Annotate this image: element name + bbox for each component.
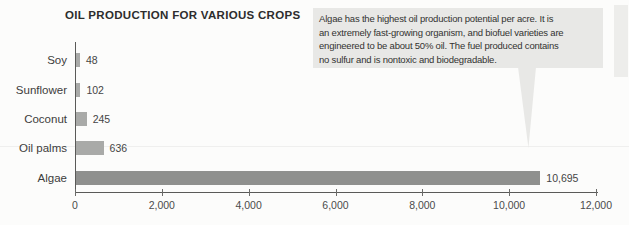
- bar-soy: [76, 53, 80, 67]
- callout-text-line: engineered to be about 50% oil. The fuel…: [319, 39, 601, 53]
- x-tick-mark: [422, 189, 423, 196]
- x-tick-label: 8,000: [392, 199, 452, 211]
- category-label: Oil palms: [0, 141, 67, 155]
- callout-tail-pointer: [518, 67, 536, 148]
- x-tick-label: 0: [45, 199, 105, 211]
- x-tick-label: 4,000: [219, 199, 279, 211]
- value-label: 10,695: [546, 171, 578, 185]
- callout-box: Algae has the highest oil production pot…: [313, 8, 603, 68]
- bar-sunflower: [76, 83, 80, 97]
- bar-coconut: [76, 112, 87, 126]
- x-tick-mark: [336, 189, 337, 196]
- bar-algae: [76, 171, 540, 185]
- callout-text-line: no sulfur and is nontoxic and biodegrada…: [319, 53, 601, 67]
- value-label: 48: [86, 53, 98, 67]
- chart-title: OIL PRODUCTION FOR VARIOUS CROPS: [65, 9, 300, 21]
- x-tick-label: 12,000: [566, 199, 626, 211]
- x-tick-mark: [509, 189, 510, 196]
- x-tick-mark: [596, 189, 597, 196]
- category-label: Coconut: [0, 112, 67, 126]
- category-label: Algae: [0, 171, 67, 185]
- x-tick-mark: [75, 189, 76, 196]
- x-axis-line: [75, 192, 598, 193]
- bar-oil-palms: [76, 141, 104, 155]
- value-label: 245: [93, 112, 111, 126]
- scan-artifact: [614, 5, 628, 77]
- value-label: 102: [86, 83, 104, 97]
- value-label: 636: [110, 141, 128, 155]
- callout-text-line: an extremely fast-growing organism, and …: [319, 26, 601, 40]
- x-tick-mark: [249, 189, 250, 196]
- x-tick-label: 6,000: [306, 199, 366, 211]
- category-label: Soy: [0, 53, 67, 67]
- oil-production-chart: OIL PRODUCTION FOR VARIOUS CROPS Algae h…: [0, 0, 629, 225]
- x-tick-label: 10,000: [479, 199, 539, 211]
- category-label: Sunflower: [0, 83, 67, 97]
- x-tick-label: 2,000: [132, 199, 192, 211]
- callout-text-line: Algae has the highest oil production pot…: [319, 12, 601, 26]
- x-tick-mark: [162, 189, 163, 196]
